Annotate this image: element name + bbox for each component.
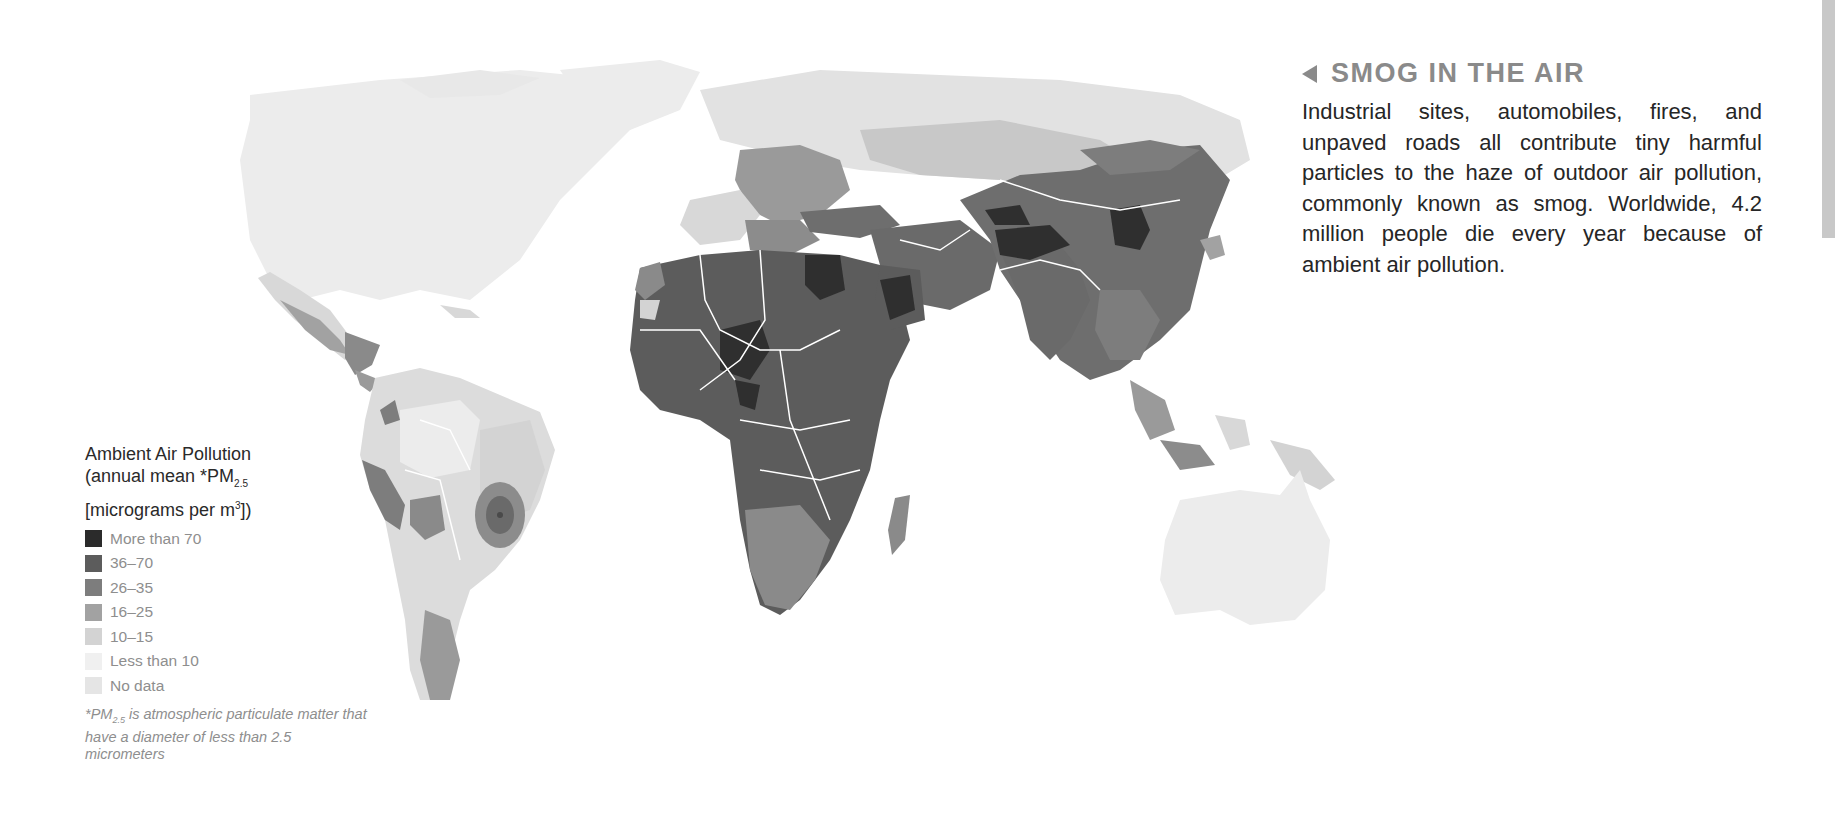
legend-item: Less than 10: [85, 649, 375, 674]
legend-swatch: [85, 579, 102, 596]
legend-item: 16–25: [85, 600, 375, 625]
panel-title-text: SMOG IN THE AIR: [1331, 58, 1585, 89]
legend-item: More than 70: [85, 527, 375, 552]
legend-swatch: [85, 555, 102, 572]
legend-swatch: [85, 677, 102, 694]
legend-title: Ambient Air Pollution (annual mean *PM2.…: [85, 443, 375, 521]
legend-title-line2: (annual mean *PM2.5: [85, 465, 375, 495]
info-panel: SMOG IN THE AIR Industrial sites, automo…: [1302, 58, 1762, 280]
south-america: [360, 368, 555, 700]
panel-title: SMOG IN THE AIR: [1302, 58, 1762, 89]
australia: [1160, 470, 1330, 625]
legend-item: 10–15: [85, 625, 375, 650]
legend-item: 26–35: [85, 576, 375, 601]
legend-swatch: [85, 653, 102, 670]
legend-swatch: [85, 604, 102, 621]
legend-footnote: *PM2.5 is atmospheric particulate matter…: [85, 706, 375, 763]
legend-swatch: [85, 530, 102, 547]
africa-middle-east: [630, 220, 1000, 615]
legend-title-line3: [micrograms per m3]): [85, 495, 375, 521]
panel-body: Industrial sites, automobiles, fires, an…: [1302, 97, 1762, 280]
legend-swatch: [85, 628, 102, 645]
legend-item: 36–70: [85, 551, 375, 576]
legend-title-line1: Ambient Air Pollution: [85, 443, 375, 465]
page-edge-strip: [1822, 0, 1835, 238]
map-legend: Ambient Air Pollution (annual mean *PM2.…: [85, 443, 375, 763]
asia: [960, 140, 1335, 490]
triangle-left-icon: [1302, 65, 1317, 83]
legend-item: No data: [85, 674, 375, 699]
